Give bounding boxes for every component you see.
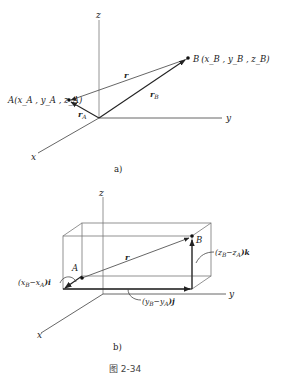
- x-axis-label: x: [31, 152, 36, 162]
- panel-b: z y x A B r (xB−xA: [18, 188, 250, 352]
- y-axis-label: y: [228, 289, 235, 299]
- point-A-label: A(x_A , y_A , z_A): [7, 95, 82, 106]
- point-B-dot: [190, 234, 194, 238]
- box-wireframe: [63, 223, 211, 289]
- component-k-label: (zB−zA)k: [215, 248, 250, 258]
- vector-r-label: r: [124, 70, 129, 80]
- panel-a-label: a): [114, 164, 122, 174]
- z-axis-label: z: [98, 188, 104, 198]
- point-B-label: B: [195, 235, 202, 245]
- panel-a: z y x r rB rA A(x_A , y_A , z_A) B(x_B ,…: [7, 10, 270, 174]
- vector-r: [82, 238, 189, 278]
- leader-j: [128, 289, 141, 300]
- point-B-label: B(x_B , y_B , z_B): [192, 54, 270, 65]
- vector-rB-label: rB: [150, 89, 159, 100]
- figure-canvas: z y x r rB rA A(x_A , y_A , z_A) B(x_B ,…: [0, 0, 281, 385]
- x-axis: [38, 118, 99, 153]
- vector-r: [71, 59, 187, 100]
- panel-b-label: b): [113, 342, 122, 352]
- vector-rB: [99, 60, 185, 118]
- component-j-label: (yB−yA)j: [142, 297, 175, 307]
- point-A-dot: [80, 276, 84, 280]
- y-axis-label: y: [225, 113, 232, 123]
- x-axis-label: x: [37, 330, 42, 340]
- vector-i-component: [65, 276, 82, 288]
- point-A-label: A: [71, 263, 78, 273]
- point-B-dot: [186, 56, 190, 60]
- x-axis: [41, 294, 103, 333]
- component-i-label: (xB−xA)i: [18, 278, 51, 288]
- figure-caption: 图 2-34: [109, 364, 142, 374]
- z-axis-label: z: [95, 10, 101, 20]
